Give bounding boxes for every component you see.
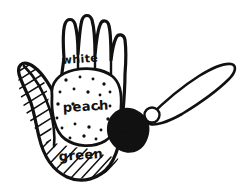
palm-speck [61,127,64,130]
zone-label-peach: peach [62,98,109,115]
palm-speck [92,78,95,81]
hand-group: white peach green [8,16,128,193]
palm-speck [73,88,76,91]
palm-speck [74,123,77,126]
palm-speck [59,91,62,94]
palm-speck [100,129,103,132]
hand-palette-drawing: white peach green [0,0,243,194]
zone-label-white: white [61,51,98,67]
palm-speck [69,137,72,140]
palm-speck [109,91,112,94]
palm-speck [56,117,59,120]
palm-speck [79,76,82,79]
palm-speck [86,90,89,93]
palm-speck [102,82,105,85]
zone-label-green: green [58,146,104,164]
palm-speck [99,94,102,97]
palm-speck [56,102,59,105]
palm-speck [64,78,67,81]
palm-speck [87,125,90,128]
palm-speck [109,105,112,108]
palm-speck [82,134,85,137]
illustration-canvas: white peach green [0,0,243,194]
palm-speck [95,138,98,141]
